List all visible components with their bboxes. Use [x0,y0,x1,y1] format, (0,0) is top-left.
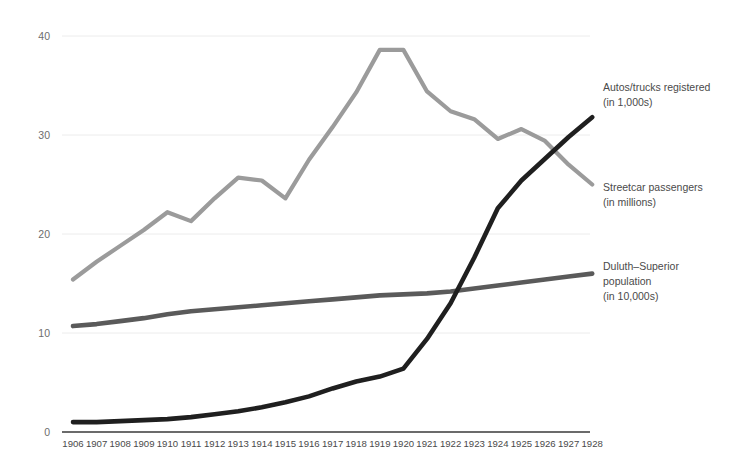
y-axis-tick-labels: 010203040 [38,30,50,438]
series-line-0 [73,50,592,280]
chart-canvas: 010203040 190619071908190919101911191219… [0,0,745,452]
line-chart: 010203040 190619071908190919101911191219… [0,0,745,452]
x-tick-1916: 1916 [298,438,319,449]
x-tick-1926: 1926 [534,438,555,449]
y-tick-0: 0 [44,426,50,438]
x-tick-1910: 1910 [157,438,178,449]
series-line-1 [73,274,592,326]
series-line-2 [73,117,592,422]
x-tick-1920: 1920 [393,438,414,449]
x-tick-1915: 1915 [275,438,296,449]
series-label-autos-trucks: Autos/trucks registered (in 1,000s) [603,80,710,110]
y-tick-30: 30 [38,129,50,141]
x-tick-1927: 1927 [558,438,579,449]
x-tick-1911: 1911 [181,438,202,449]
x-tick-1928: 1928 [582,438,603,449]
x-tick-1919: 1919 [369,438,390,449]
x-tick-1907: 1907 [86,438,107,449]
series-label-streetcar: Streetcar passengers (in millions) [603,180,703,210]
x-tick-1913: 1913 [228,438,249,449]
x-tick-1914: 1914 [251,438,273,449]
x-tick-1921: 1921 [416,438,437,449]
x-tick-1922: 1922 [440,438,461,449]
gridlines [62,36,590,333]
series-lines [73,50,592,422]
x-tick-1906: 1906 [62,438,83,449]
x-tick-1925: 1925 [511,438,532,449]
series-label-population: Duluth–Superior population (in 10,000s) [603,259,679,304]
x-axis-tick-labels: 1906190719081909191019111912191319141915… [62,438,603,449]
x-tick-1917: 1917 [322,438,343,449]
y-tick-40: 40 [38,30,50,42]
x-tick-1908: 1908 [110,438,131,449]
x-tick-1923: 1923 [464,438,485,449]
y-tick-10: 10 [38,327,50,339]
x-tick-1924: 1924 [487,438,509,449]
x-tick-1909: 1909 [133,438,154,449]
y-tick-20: 20 [38,228,50,240]
x-tick-1918: 1918 [346,438,367,449]
x-tick-1912: 1912 [204,438,225,449]
